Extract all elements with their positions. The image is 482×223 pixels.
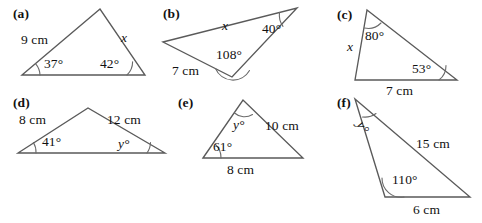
figure-a-side-left-label: 9 cm <box>21 33 48 47</box>
figure-c-part-label: (c) <box>337 8 352 22</box>
figure-a-angle-left-label: 37° <box>44 57 63 71</box>
figure-a-angle-right-label: 42° <box>100 57 119 71</box>
figure-a-side-right-label: x <box>121 31 127 45</box>
figure-d-side-right-label: 12 cm <box>107 113 141 127</box>
triangles-svg <box>0 0 482 223</box>
figure-sheet: (a) 9 cm x 37° 42° (b) x 7 cm 40° 108° (… <box>0 0 482 223</box>
figure-f-side-right-label: 15 cm <box>416 137 450 151</box>
figure-f-part-label: (f) <box>337 96 351 110</box>
figure-b-angle-right-label: 40° <box>262 22 281 36</box>
figure-b-side-top-label: x <box>222 19 228 33</box>
figure-f-angle-bottom-left-label: 110° <box>392 173 418 187</box>
figure-d-part-label: (d) <box>13 96 30 110</box>
figure-d-angle-right-label: y° <box>118 137 130 151</box>
figure-d-side-left-label: 8 cm <box>19 113 46 127</box>
figure-b-part-label: (b) <box>163 7 180 21</box>
figure-f-side-bottom-label: 6 cm <box>413 203 440 217</box>
figure-e-side-bottom-label: 8 cm <box>227 163 254 177</box>
figure-a-part-label: (a) <box>13 7 29 21</box>
figure-c-side-bottom-label: 7 cm <box>386 84 413 98</box>
figure-c-angle-top-label: 80° <box>365 29 384 43</box>
figure-e-side-right-label: 10 cm <box>265 119 299 133</box>
figure-b-side-lower-left-label: 7 cm <box>172 64 199 78</box>
figure-e-part-label: (e) <box>178 96 193 110</box>
figure-c-side-left-label: x <box>347 40 353 54</box>
figure-c-angle-right-label: 53° <box>412 62 431 76</box>
figure-b-angle-bottom-label: 108° <box>216 48 242 62</box>
triangle-c-shape <box>355 10 457 80</box>
figure-e-angle-left-label: 61° <box>213 140 232 154</box>
figure-d-angle-left-label: 41° <box>42 135 61 149</box>
figure-e-angle-top-label: y° <box>233 118 245 132</box>
